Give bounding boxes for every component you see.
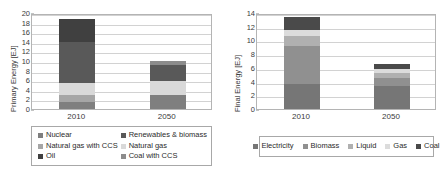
legend-primary: NuclearRenewables & biomassNatural gas w… [31,126,212,166]
bar-segment-natural-gas-with-ccs[interactable] [59,95,95,102]
y-tick-label: 10 [22,58,30,66]
bar-segment-electricity[interactable] [374,86,410,109]
bar-segment-electricity[interactable] [284,84,320,109]
chart-panel-final-energy: Final Energy [EJ] 02468101214 20102050 E… [222,0,445,171]
x-tick-label: 2010 [256,112,346,121]
y-axis-ticks-primary: 02468101214161820 [13,14,31,110]
y-tick-label: 18 [22,20,30,28]
legend-label: Nuclear [46,131,72,140]
legend-label: Natural gas [129,142,167,151]
bar-segment-natural-gas[interactable] [150,81,186,95]
y-tick-label: 14 [22,39,30,47]
legend-item[interactable]: Gas [385,142,407,151]
y-tick-label: 12 [247,24,255,32]
bar-segment-coal[interactable] [284,17,320,30]
bar-segment-nuclear[interactable] [59,102,95,109]
bar-segment-natural-gas[interactable] [59,83,95,95]
x-axis-labels-final: 20102050 [256,112,436,121]
y-tick-label: 8 [251,51,255,59]
figure-container: Primary Energy [EJ] 02468101214161820 20… [0,0,445,171]
y-tick-label: 6 [251,65,255,73]
y-tick-label: 6 [26,77,30,85]
y-tick-label: 4 [251,79,255,87]
stacked-bar-2010[interactable] [59,19,95,109]
y-tick-label: 0 [26,106,30,114]
bar-segment-renewables-biomass[interactable] [59,42,95,83]
legend-swatch-icon [38,144,43,149]
legend-item[interactable]: Biomass [303,142,340,151]
legend-label: Biomass [311,142,340,151]
legend-swatch-icon [38,154,43,159]
plot-area-final [256,14,436,110]
bar-segment-oil[interactable] [59,19,95,42]
legend-label: Natural gas with CCS [46,142,118,151]
stacked-bar-2010[interactable] [284,17,320,109]
plot-area-primary [31,14,212,110]
x-tick-label: 2050 [122,112,213,121]
legend-item[interactable]: Nuclear [38,131,121,140]
y-tick-label: 14 [247,10,255,18]
legend-label: Renewables & biomass [129,131,207,140]
x-axis-labels-primary: 20102050 [31,112,212,121]
bar-segment-biomass[interactable] [284,46,320,84]
legend-item[interactable]: Coal [416,142,439,151]
legend-swatch-icon [253,144,258,149]
legend-final: ElectricityBiomassLiquidGasCoal [259,136,434,157]
stacked-bar-2050[interactable] [374,64,410,109]
legend-swatch-icon [303,144,308,149]
y-tick-label: 12 [22,49,30,57]
legend-swatch-icon [416,144,421,149]
legend-swatch-icon [38,133,43,138]
legend-swatch-icon [121,144,126,149]
legend-swatch-icon [121,154,126,159]
y-tick-label: 4 [26,87,30,95]
legend-item[interactable]: Natural gas [121,142,207,151]
y-tick-label: 2 [26,97,30,105]
legend-item[interactable]: Renewables & biomass [121,131,207,140]
legend-item[interactable]: Natural gas with CCS [38,142,121,151]
y-tick-label: 10 [247,38,255,46]
legend-item[interactable]: Coal with CCS [121,152,207,161]
legend-label: Liquid [356,142,376,151]
stacked-bar-2050[interactable] [150,61,186,109]
x-tick-label: 2050 [346,112,436,121]
x-tick-label: 2010 [31,112,122,121]
y-axis-ticks-final: 02468101214 [238,14,256,110]
bar-segment-liquid[interactable] [284,36,320,46]
legend-item[interactable]: Oil [38,152,121,161]
y-tick-label: 20 [22,10,30,18]
bar-segment-biomass[interactable] [374,78,410,86]
legend-swatch-icon [121,133,126,138]
legend-item[interactable]: Electricity [253,142,293,151]
legend-swatch-icon [385,144,390,149]
y-tick-label: 16 [22,29,30,37]
legend-item[interactable]: Liquid [348,142,376,151]
y-tick-label: 0 [251,106,255,114]
legend-label: Coal [424,142,439,151]
legend-label: Oil [46,152,55,161]
legend-label: Gas [393,142,407,151]
bar-segment-renewables-biomass[interactable] [150,65,186,81]
legend-swatch-icon [348,144,353,149]
bar-segment-nuclear[interactable] [150,95,186,109]
chart-panel-primary-energy: Primary Energy [EJ] 02468101214161820 20… [0,0,222,171]
gridline [32,15,211,16]
gridline [257,15,435,16]
y-tick-label: 8 [26,68,30,76]
legend-label: Coal with CCS [129,152,178,161]
legend-label: Electricity [261,142,293,151]
y-tick-label: 2 [251,93,255,101]
